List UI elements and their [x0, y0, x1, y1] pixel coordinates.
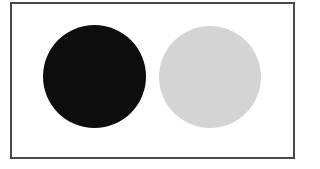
black-circle: [43, 25, 146, 128]
gray-circle: [159, 26, 261, 128]
